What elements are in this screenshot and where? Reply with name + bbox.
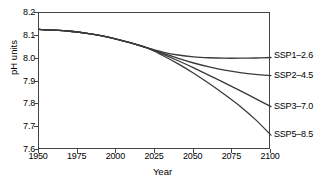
series-lines [39,13,271,150]
x-tick-label: 2100 [260,151,279,161]
series-line [39,29,271,75]
x-tick-label: 2050 [183,151,202,161]
x-axis-title: Year [0,166,325,177]
series-label-ssp1-2-6: SSP1–2.6 [274,50,313,60]
series-label-ssp5-8-5: SSP5–8.5 [274,129,313,139]
series-label-ssp2-4-5: SSP2–4.5 [274,70,313,80]
chart-figure: pH units 7.67.77.87.98.08.18.2 195019752… [0,0,325,189]
plot-area [38,12,270,149]
x-tick-label: 2075 [222,151,241,161]
series-label-ssp3-7-0: SSP3–7.0 [274,101,313,111]
series-line [39,29,271,135]
x-tick-label: 1950 [28,151,47,161]
series-line [39,29,271,106]
x-tick-label: 2025 [144,151,163,161]
series-line [39,29,271,58]
x-tick-label: 2000 [106,151,125,161]
x-tick-label: 1975 [67,151,86,161]
